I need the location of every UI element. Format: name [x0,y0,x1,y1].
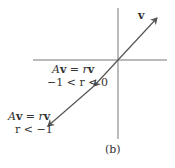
caption: (b) [105,144,121,156]
label-mid-equation: Av = rv [52,64,94,76]
vector-v [118,18,157,60]
vector-v-label: v [138,10,144,22]
vector-rv-low [48,86,94,126]
label-low-condition: r < −1 [15,124,53,136]
label-mid-condition: −1 < r < 0 [47,77,108,89]
label-low-equation: Av = rv [8,111,50,123]
